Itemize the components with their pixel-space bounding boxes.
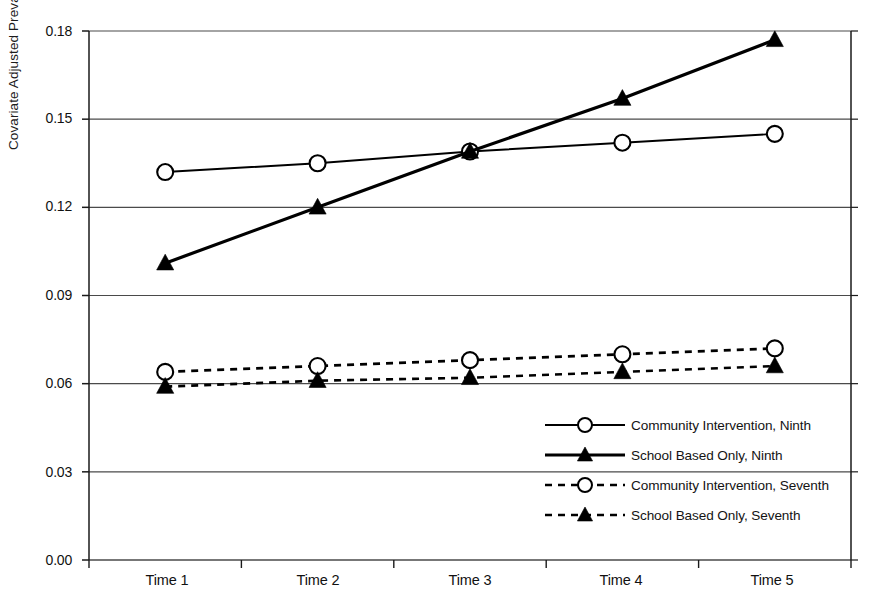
y-tick-label-0.03: 0.03: [20, 464, 72, 480]
marker-open-circle: [462, 352, 478, 368]
marker-open-circle: [157, 164, 173, 180]
y-axis-title: Covariate Adjusted Prevalence: [6, 0, 21, 150]
x-tick-label-time-4: Time 4: [571, 572, 671, 588]
legend-label-school-based-only-seventh: School Based Only, Seventh: [631, 508, 800, 523]
marker-open-circle: [310, 155, 326, 171]
series-2: [157, 31, 784, 270]
marker-open-circle: [767, 340, 783, 356]
marker-open-circle: [578, 478, 592, 492]
marker-filled-triangle: [766, 31, 783, 47]
marker-filled-triangle: [461, 369, 478, 385]
marker-open-circle: [614, 346, 630, 362]
y-tick-label-0.06: 0.06: [20, 375, 72, 391]
y-tick-label-0.15: 0.15: [20, 110, 72, 126]
legend-glyph-3: [545, 478, 625, 492]
legend-glyph-2: [545, 447, 625, 461]
legend-label-community-intervention-seventh: Community Intervention, Seventh: [631, 478, 829, 493]
marker-open-circle: [578, 418, 592, 432]
x-tick-label-time-5: Time 5: [722, 572, 822, 588]
y-tick-label-0.18: 0.18: [20, 23, 72, 39]
legend-label-community-intervention-ninth: Community Intervention, Ninth: [631, 418, 811, 433]
y-tick-label-0.09: 0.09: [20, 287, 72, 303]
y-tick-label-0.12: 0.12: [20, 198, 72, 214]
legend-glyph-1: [545, 418, 625, 432]
marker-open-circle: [767, 126, 783, 142]
legend-glyphs: [545, 418, 625, 521]
chart-figure: Covariate Adjusted Prevalence 0.18 0.15 …: [0, 0, 873, 610]
legend-glyph-4: [545, 507, 625, 521]
legend-label-school-based-only-ninth: School Based Only, Ninth: [631, 448, 783, 463]
x-tick-label-time-2: Time 2: [268, 572, 368, 588]
marker-filled-triangle: [614, 363, 631, 379]
data-series: [157, 31, 784, 394]
y-tick-label-0.00: 0.00: [20, 552, 72, 568]
marker-filled-triangle: [766, 357, 783, 373]
x-tick-label-time-3: Time 3: [420, 572, 520, 588]
x-tick-label-time-1: Time 1: [117, 572, 217, 588]
marker-open-circle: [614, 135, 630, 151]
